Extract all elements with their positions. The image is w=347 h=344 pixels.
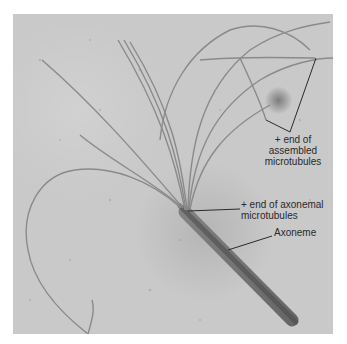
microtubule-filaments — [26, 22, 333, 334]
label-line: + end of — [256, 134, 330, 145]
background-speckles — [29, 39, 311, 321]
micrograph-panel — [13, 14, 333, 334]
label-line: + end of axonemal — [241, 199, 324, 210]
label-line: microtubules — [256, 156, 330, 167]
label-axonemal-plus-end: + end of axonemal microtubules — [241, 199, 324, 221]
micrograph-image — [13, 14, 333, 334]
label-line: assembled — [256, 145, 330, 156]
label-line: microtubules — [241, 210, 324, 221]
label-assembled-plus-end: + end of assembled microtubules — [256, 134, 330, 167]
label-axoneme: Axoneme — [274, 227, 316, 238]
